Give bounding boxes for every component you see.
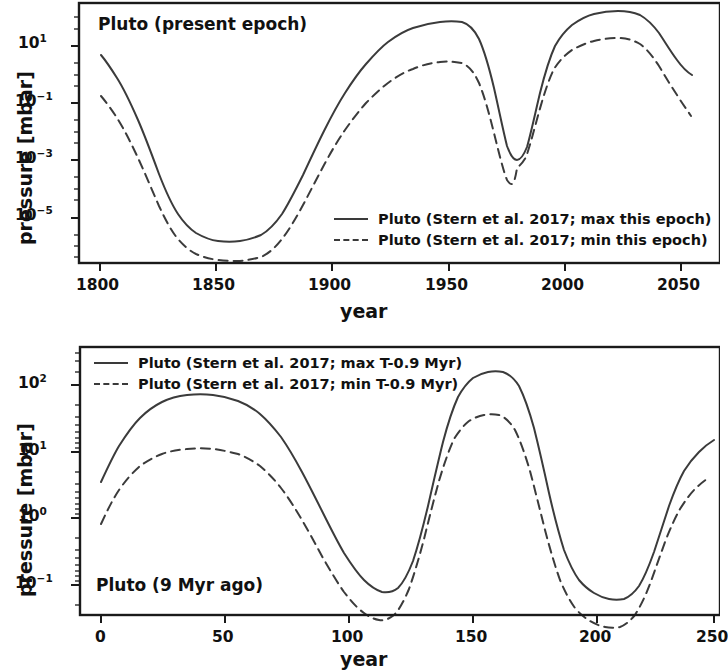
bottom-panel-legend: Pluto (Stern et al. 2017; max T-0.9 Myr)…	[94, 352, 462, 394]
bottom-xtick-0: 0	[95, 628, 106, 646]
legend-line-solid-icon	[94, 357, 128, 369]
top-panel-legend: Pluto (Stern et al. 2017; max this epoch…	[334, 208, 711, 250]
top-panel-xlabel: year	[340, 300, 387, 322]
legend-line-solid-icon	[334, 213, 368, 225]
bottom-xtick-5: 250	[696, 628, 728, 646]
bottom-series-min	[101, 414, 710, 628]
top-panel-plot	[0, 0, 720, 300]
top-xtick-5: 2050	[657, 276, 700, 294]
top-xtick-0: 1800	[76, 276, 119, 294]
top-xtick-4: 2000	[541, 276, 584, 294]
bottom-panel-title: Pluto (9 Myr ago)	[96, 575, 263, 595]
legend-line-dashed-icon	[334, 234, 368, 246]
legend-item: Pluto (Stern et al. 2017; min this epoch…	[334, 229, 711, 250]
legend-label: Pluto (Stern et al. 2017; min T-0.9 Myr)	[138, 376, 458, 392]
bottom-xtick-2: 100	[331, 628, 363, 646]
legend-line-dashed-icon	[94, 378, 128, 390]
bottom-xtick-3: 150	[455, 628, 487, 646]
legend-label: Pluto (Stern et al. 2017; min this epoch…	[378, 232, 708, 248]
top-xtick-3: 1950	[425, 276, 468, 294]
top-panel-title: Pluto (present epoch)	[98, 14, 307, 34]
legend-item: Pluto (Stern et al. 2017; min T-0.9 Myr)	[94, 373, 462, 394]
legend-item: Pluto (Stern et al. 2017; max T-0.9 Myr)	[94, 352, 462, 373]
top-xtick-2: 1900	[308, 276, 351, 294]
bottom-xtick-4: 200	[579, 628, 611, 646]
bottom-series-max	[101, 371, 714, 600]
legend-label: Pluto (Stern et al. 2017; max T-0.9 Myr)	[138, 355, 462, 371]
bottom-xtick-1: 50	[212, 628, 234, 646]
top-xtick-1: 1850	[192, 276, 235, 294]
legend-item: Pluto (Stern et al. 2017; max this epoch…	[334, 208, 711, 229]
legend-label: Pluto (Stern et al. 2017; max this epoch…	[378, 211, 711, 227]
bottom-panel-xlabel: year	[340, 648, 387, 670]
